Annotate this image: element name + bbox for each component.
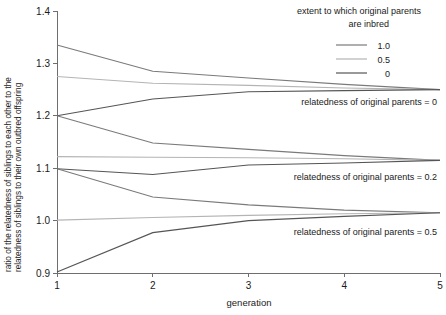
legend-label-1.0: 1.0 bbox=[377, 41, 390, 51]
series-line-g1-1.0 bbox=[57, 116, 440, 161]
y-axis-title: ratio of the relatedness of siblings to … bbox=[4, 77, 23, 272]
legend-label-0: 0 bbox=[385, 69, 390, 79]
legend: extent to which original parents are inb… bbox=[297, 6, 422, 79]
x-tick-label: 2 bbox=[150, 280, 156, 291]
x-tick-label: 4 bbox=[341, 280, 347, 291]
legend-items: 1.00.50 bbox=[336, 41, 390, 79]
x-tick-group: 12345 bbox=[54, 273, 443, 291]
y-tick-group: 1.41.31.21.11.00.9 bbox=[36, 6, 57, 279]
x-axis-title: generation bbox=[227, 297, 272, 308]
x-tick-label: 1 bbox=[54, 280, 60, 291]
y-tick-label: 1.2 bbox=[36, 110, 50, 121]
y-tick-label: 1.0 bbox=[36, 215, 50, 226]
line-chart: 1.41.31.21.11.00.9 12345 relatedness of … bbox=[0, 0, 446, 315]
y-axis-title-line1: ratio of the relatedness of siblings to … bbox=[4, 77, 13, 272]
group-annotation-2: relatedness of original parents = 0.5 bbox=[294, 227, 437, 237]
group-annotation-0: relatedness of original parents = 0 bbox=[301, 97, 437, 107]
series-line-g2-0 bbox=[57, 213, 440, 272]
y-tick-label: 1.4 bbox=[36, 6, 50, 17]
series-line-g0-1.0 bbox=[57, 45, 440, 90]
series-line-g2-0.5 bbox=[57, 213, 440, 220]
x-tick-label: 5 bbox=[437, 280, 443, 291]
series-group bbox=[57, 45, 440, 272]
legend-title-line2: are inbred bbox=[348, 19, 389, 29]
y-tick-label: 1.3 bbox=[36, 58, 50, 69]
group-annotation-1: relatedness of original parents = 0.2 bbox=[294, 172, 437, 182]
y-tick-label: 1.1 bbox=[36, 163, 50, 174]
x-tick-label: 3 bbox=[246, 280, 252, 291]
legend-title-line1: extent to which original parents bbox=[297, 6, 422, 16]
x-axis: 12345 bbox=[54, 273, 443, 291]
y-tick-label: 0.9 bbox=[36, 268, 50, 279]
y-axis: 1.41.31.21.11.00.9 bbox=[36, 6, 57, 279]
chart-figure: 1.41.31.21.11.00.9 12345 relatedness of … bbox=[0, 0, 446, 315]
legend-label-0.5: 0.5 bbox=[377, 55, 390, 65]
y-axis-title-line2: relatedness of siblings to their own out… bbox=[14, 82, 23, 272]
